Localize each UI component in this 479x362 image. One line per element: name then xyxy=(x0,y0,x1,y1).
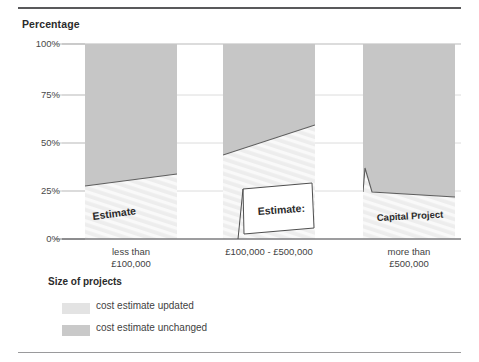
legend-title: Size of projects xyxy=(48,276,122,287)
x-category-1-line2: £100,000 xyxy=(85,258,177,270)
legend-label-updated: cost estimate updated xyxy=(96,300,194,311)
y-axis-labels: 100% 75% 50% 25% 0% xyxy=(14,0,60,362)
bar-3-upper-band xyxy=(363,44,455,197)
y-tick-75: 75% xyxy=(14,89,60,100)
y-tick-100: 100% xyxy=(14,38,60,49)
x-category-2-line1: £100,000 - £500,000 xyxy=(199,246,339,258)
legend-label-unchanged: cost estimate unchanged xyxy=(96,322,207,333)
y-tick-25: 25% xyxy=(14,185,60,196)
x-category-3-line2: £500,000 xyxy=(363,258,455,270)
legend-swatch-unchanged xyxy=(62,325,90,336)
x-category-label-2: £100,000 - £500,000 xyxy=(199,246,339,258)
y-tick-50: 50% xyxy=(14,137,60,148)
x-category-3-line1: more than xyxy=(363,246,455,258)
x-category-1-line1: less than xyxy=(85,246,177,258)
bar-1-upper-band xyxy=(85,44,177,186)
legend-swatch-updated xyxy=(62,303,90,314)
x-category-label-3: more than £500,000 xyxy=(363,246,455,269)
y-tick-0: 0% xyxy=(14,233,60,244)
x-category-label-1: less than £100,000 xyxy=(85,246,177,269)
